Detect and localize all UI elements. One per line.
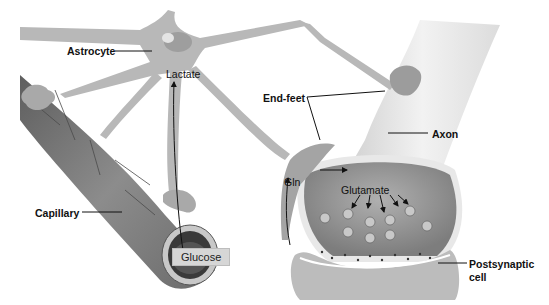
axon-label: Axon bbox=[432, 128, 458, 140]
astrocyte-label: Astrocyte bbox=[67, 45, 115, 57]
diagram-canvas: Astrocyte Lactate End-feet Axon Capillar… bbox=[0, 0, 549, 305]
end-feet-label: End-feet bbox=[263, 92, 305, 104]
postsynaptic-label-line1: Postsynaptic bbox=[469, 258, 534, 270]
capillary-label: Capillary bbox=[35, 207, 79, 219]
presynaptic-terminal bbox=[297, 155, 462, 262]
axon bbox=[345, 20, 500, 175]
glutamate-label: Glutamate bbox=[341, 184, 389, 196]
postsynaptic-label-line2: cell bbox=[469, 271, 487, 283]
glucose-label: Glucose bbox=[172, 248, 230, 266]
gln-label: Gln bbox=[284, 176, 300, 188]
lactate-label: Lactate bbox=[166, 68, 200, 80]
